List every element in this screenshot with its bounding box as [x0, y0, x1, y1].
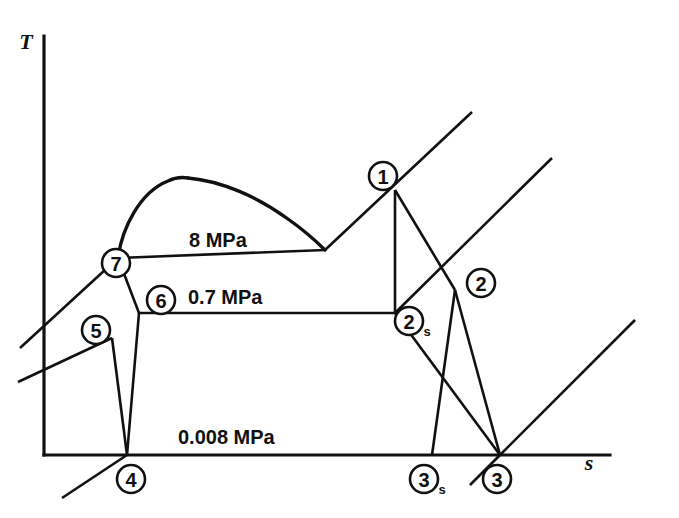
process-4-6-pump	[127, 313, 139, 455]
isobar-label-0p008mpa: 0.008 MPa	[178, 426, 276, 448]
process-2-3s-vertical	[432, 290, 455, 455]
state-point-3s[interactable]: 3 s	[410, 465, 446, 497]
state-point-3[interactable]: 3	[483, 465, 511, 493]
isobar-8mpa-line	[118, 250, 325, 258]
superheat-line-0p008mpa	[500, 320, 635, 455]
superheat-line-8mpa	[325, 112, 472, 250]
state-point-5[interactable]: 5	[82, 316, 110, 344]
state-point-4[interactable]: 4	[117, 465, 145, 493]
ts-diagram-canvas: 1 2 2 s 3 3 s 4 5	[0, 0, 679, 518]
isobar-label-8mpa: 8 MPa	[189, 229, 248, 251]
state-3-label: 3	[491, 469, 502, 491]
entropy-axis-label: s	[584, 450, 594, 475]
pump-processes-group	[112, 258, 139, 455]
state-2s-label: 2	[403, 311, 414, 333]
state-1-label: 1	[377, 166, 388, 188]
state-7-label: 7	[110, 253, 121, 275]
dome-left-branch	[118, 177, 188, 258]
state-2-label: 2	[475, 273, 486, 295]
state-5-label: 5	[90, 320, 101, 342]
state-point-2[interactable]: 2	[467, 269, 495, 297]
process-4-5-pump	[112, 338, 127, 455]
state-point-7[interactable]: 7	[102, 249, 130, 277]
state-point-2s[interactable]: 2 s	[395, 307, 431, 339]
isobar-label-0p7mpa: 0.7 MPa	[188, 286, 263, 308]
process-1-2-actual	[395, 190, 455, 290]
state-point-1[interactable]: 1	[369, 162, 397, 190]
ts-diagram-figure: 1 2 2 s 3 3 s 4 5	[0, 0, 679, 518]
state-2s-subscript: s	[423, 324, 430, 339]
temperature-axis-label: T	[19, 29, 34, 54]
state-6-label: 6	[155, 290, 166, 312]
guide-lines-group	[18, 258, 127, 498]
state-3s-subscript: s	[438, 482, 445, 497]
state-4-label: 4	[125, 469, 137, 491]
state-point-6[interactable]: 6	[147, 286, 175, 314]
state-3s-label: 3	[418, 469, 429, 491]
axes-group	[44, 36, 610, 455]
process-2-3-actual	[455, 290, 500, 455]
